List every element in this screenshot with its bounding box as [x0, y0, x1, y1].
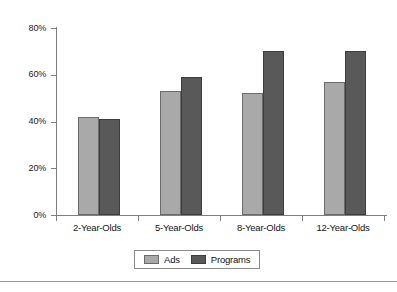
bar-programs-8-year-olds: [263, 51, 284, 215]
legend-entry-ads[interactable]: Ads: [144, 254, 180, 265]
x-tick-label-5-year-olds: 5-Year-Olds: [138, 222, 220, 233]
y-tick-mark-80: [51, 28, 56, 29]
bar-ads-8-year-olds: [242, 93, 263, 215]
x-tick-label-12-year-olds: 12-Year-Olds: [302, 222, 384, 233]
bar-programs-12-year-olds: [345, 51, 366, 215]
legend-swatch-ads-icon: [144, 255, 159, 264]
bar-group-12-year-olds: [324, 28, 366, 215]
y-tick-label-0: 0%: [2, 211, 46, 220]
bar-chart-figure: 80% 60% 40% 20% 0% 2-Year-Olds 5-Year-Ol…: [0, 0, 397, 292]
y-tick-label-60: 60%: [2, 70, 46, 79]
legend-label-ads: Ads: [164, 254, 180, 265]
bar-ads-2-year-olds: [78, 117, 99, 215]
x-tick-mark-4: [384, 216, 385, 221]
x-tick-mark-1: [138, 216, 139, 221]
bar-group-5-year-olds: [160, 28, 202, 215]
bar-ads-12-year-olds: [324, 82, 345, 215]
x-tick-mark-3: [302, 216, 303, 221]
y-tick-mark-60: [51, 75, 56, 76]
x-axis-line: [56, 215, 387, 216]
bar-ads-5-year-olds: [160, 91, 181, 215]
y-tick-label-40: 40%: [2, 117, 46, 126]
bar-group-2-year-olds: [78, 28, 120, 215]
bar-programs-2-year-olds: [99, 119, 120, 215]
y-tick-label-80: 80%: [2, 24, 46, 33]
bar-programs-5-year-olds: [181, 77, 202, 215]
y-tick-mark-20: [51, 168, 56, 169]
legend-swatch-programs-icon: [191, 255, 206, 264]
x-tick-label-2-year-olds: 2-Year-Olds: [56, 222, 138, 233]
legend-label-programs: Programs: [211, 254, 251, 265]
legend-entry-programs[interactable]: Programs: [191, 254, 251, 265]
bar-group-8-year-olds: [242, 28, 284, 215]
plot-area: [57, 28, 387, 215]
x-tick-mark-2: [220, 216, 221, 221]
chart-legend: Ads Programs: [134, 250, 260, 269]
bottom-divider: [0, 281, 397, 282]
x-tick-mark-0: [56, 216, 57, 221]
y-tick-mark-40: [51, 122, 56, 123]
x-tick-label-8-year-olds: 8-Year-Olds: [220, 222, 302, 233]
y-tick-label-20: 20%: [2, 164, 46, 173]
